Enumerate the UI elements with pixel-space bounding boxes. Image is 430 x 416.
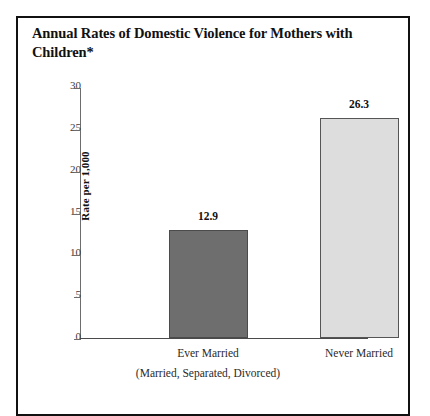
bar-ever-married[interactable]: 12.9 xyxy=(169,230,248,338)
y-axis-tick-label: 20 xyxy=(57,164,81,175)
bar-never-married[interactable]: 26.3 xyxy=(320,118,399,338)
x-axis-line xyxy=(80,338,368,339)
x-axis-label-never-married: Never Married xyxy=(249,343,430,363)
y-axis-tick-label: 15 xyxy=(57,206,81,217)
category-label: Never Married xyxy=(249,343,430,363)
bar-value-label: 26.3 xyxy=(309,99,410,111)
y-axis-tick-mark xyxy=(74,255,81,256)
y-axis-tick-mark xyxy=(74,88,81,89)
y-axis-tick-mark xyxy=(74,130,81,131)
bar-value-label: 12.9 xyxy=(158,211,259,223)
category-sublabel: (Married, Separated, Divorced) xyxy=(98,363,318,383)
y-axis-tick-label: 25 xyxy=(57,122,81,133)
y-axis-tick-label: 10 xyxy=(57,247,81,258)
y-axis-tick-mark xyxy=(74,339,81,340)
y-axis-tick-label: 30 xyxy=(57,80,81,91)
figure-frame: Annual Rates of Domestic Violence for Mo… xyxy=(16,16,410,416)
y-axis-tick-mark xyxy=(74,214,81,215)
plot-area: Rate per 1,000 302520151050 12.926.3 Eve… xyxy=(64,72,384,339)
y-axis-tick-mark xyxy=(74,172,81,173)
y-axis-tick-label: 5 xyxy=(57,289,81,300)
y-axis-tick-label: 0 xyxy=(57,331,81,342)
y-axis-tick-mark xyxy=(74,297,81,298)
page-title: Annual Rates of Domestic Violence for Mo… xyxy=(32,24,384,63)
